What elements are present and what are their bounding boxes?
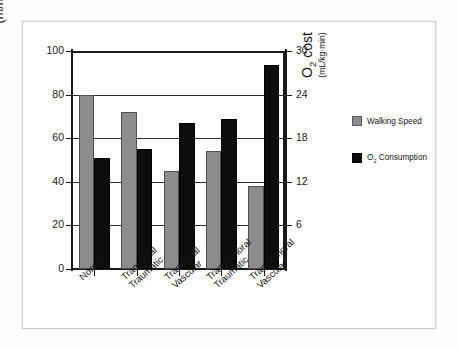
legend-item-o2-consumption: O2 Consumption — [352, 153, 427, 164]
bar-chart-figure: 020406080100612182430 NormalTranstibialT… — [0, 0, 458, 349]
y-axis-right-tick-label: 18 — [296, 131, 308, 143]
y-axis-left-tick-label: 40 — [40, 175, 64, 187]
y-axis-right-title: O2 cost (mL/kg·min) — [300, 0, 328, 110]
bars-layer — [73, 51, 285, 269]
y-axis-left-title: Walking Speed (m/min) — [0, 0, 6, 92]
y-axis-left-tick-label: 20 — [40, 218, 64, 230]
bar-o2-consumption — [94, 158, 110, 269]
y-axis-left-tick-label: 60 — [40, 131, 64, 143]
bar-walking-speed — [206, 151, 222, 269]
legend-item-walking-speed: Walking Speed — [352, 116, 427, 126]
bar-walking-speed — [79, 95, 95, 269]
legend-label-walking-speed: Walking Speed — [367, 117, 422, 126]
figure-page: 020406080100612182430 NormalTranstibialT… — [0, 0, 458, 349]
bar-o2-consumption — [264, 65, 280, 269]
y-axis-right-title-sub: (mL/kg·min) — [318, 0, 327, 110]
y-axis-right-title-main: O2 cost — [299, 32, 315, 78]
legend-swatch-o2-consumption — [352, 153, 362, 163]
legend: Walking Speed O2 Consumption — [352, 116, 427, 191]
y-axis-left-tick-label: 0 — [40, 262, 64, 274]
y-axis-left-title-sub: (m/min) — [0, 0, 6, 92]
y-axis-right-tick-label: 12 — [296, 175, 308, 187]
bar-walking-speed — [164, 171, 180, 269]
y-axis-left-tick-label: 80 — [40, 88, 64, 100]
legend-label-o2-consumption: O2 Consumption — [367, 153, 427, 164]
y-axis-left-tick-label: 100 — [40, 44, 64, 56]
bar-walking-speed — [121, 112, 137, 269]
y-axis-right-tick-label: 6 — [296, 218, 302, 230]
legend-swatch-walking-speed — [352, 116, 362, 126]
